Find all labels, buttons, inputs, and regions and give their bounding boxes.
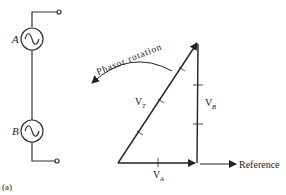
reference-label: Reference [239,159,280,170]
figure-label: (a) [2,182,12,192]
source-b-label: B [12,125,19,137]
top-wire [32,12,57,27]
series-circuit [21,10,61,163]
phasor-rotation-label: Phasor rotation [95,41,163,76]
label-vt: V T [135,96,146,109]
diagram-canvas: A B (a) Reference Phasor rotation V T V … [0,0,286,195]
bottom-wire [32,142,55,161]
vb-subscript: B [212,103,216,110]
label-vb: V B [205,97,216,110]
vt-subscript: T [142,102,146,109]
phasor-vb [197,44,198,163]
top-terminal [57,10,61,14]
source-a-label: A [11,33,19,45]
bottom-terminal [55,159,59,163]
va-subscript: A [159,175,164,182]
label-va: V A [153,169,164,182]
